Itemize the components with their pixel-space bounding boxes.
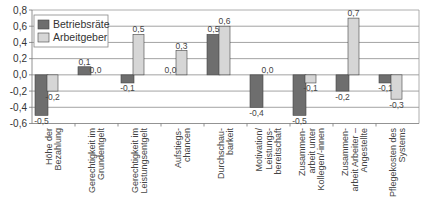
category-label-line: chancen bbox=[182, 128, 192, 162]
category-label-line: Aufstiegs- bbox=[173, 128, 183, 168]
legend: BetriebsräteArbeitgeber bbox=[34, 15, 110, 47]
category-label-line: Kollegen/-innen bbox=[316, 128, 326, 191]
category-label-line: Angestellte bbox=[359, 128, 369, 173]
legend-swatch-arbeitgeber bbox=[38, 33, 49, 42]
category-label-line: arbeit unter bbox=[307, 128, 317, 174]
category-label-line: barkeit bbox=[225, 128, 235, 156]
category-label-line: bereitschaft bbox=[273, 128, 283, 175]
value-label: -0,4 bbox=[249, 108, 264, 118]
value-label: -0,5 bbox=[292, 116, 307, 126]
bar-chart: 0,80,60,40,20,0-0,2-0,4-0,6 -0,50,1-0,10… bbox=[0, 0, 424, 207]
category-label: Gerechtigkeit imLeistungsentgelt bbox=[130, 128, 150, 194]
value-label: -0,5 bbox=[34, 116, 49, 126]
y-tick-label: 0,8 bbox=[13, 5, 27, 16]
bar-betriebsraete bbox=[121, 75, 134, 83]
y-tick-label: -0,6 bbox=[10, 118, 28, 129]
bar-betriebsraete bbox=[293, 75, 306, 116]
category-label-line: Gerechtigkeit im bbox=[87, 128, 97, 193]
value-label: 0,6 bbox=[219, 16, 231, 26]
category-label-line: Zusammen- bbox=[340, 128, 350, 176]
value-label: 0,3 bbox=[176, 41, 188, 51]
category-label-line: Grundentgelt bbox=[96, 128, 106, 181]
y-tick-label: 0,6 bbox=[13, 21, 27, 32]
category-label-line: Systems bbox=[397, 128, 407, 163]
bar-betriebsraete bbox=[207, 34, 220, 75]
category-label-line: Gerechtigkeit im bbox=[130, 128, 140, 193]
value-label: -0,2 bbox=[335, 92, 350, 102]
category-label: Höhe derBezahlung bbox=[44, 128, 64, 171]
category-label: Aufstiegs-chancen bbox=[173, 128, 193, 168]
legend-label: Arbeitgeber bbox=[53, 31, 108, 43]
bar-betriebsraete bbox=[250, 75, 263, 107]
category-label: Pflegekosten desSystems bbox=[388, 128, 408, 198]
bar-arbeitgeber bbox=[176, 51, 187, 75]
category-label: Gerechtigkeit imGrundentgelt bbox=[87, 128, 107, 194]
category-label-line: Durchschau- bbox=[216, 128, 226, 179]
category-label-line: Höhe der bbox=[44, 128, 54, 165]
category-label-line: Pflegekosten des bbox=[388, 128, 398, 198]
value-label: -0,1 bbox=[120, 83, 135, 93]
category-label-line: Bezahlung bbox=[53, 128, 63, 171]
category-label-line: Zusammen- bbox=[297, 128, 307, 176]
category-label: Zusammen-arbeit Arbeiter –Angestellte bbox=[340, 128, 369, 192]
y-tick-label: -0,4 bbox=[10, 102, 28, 113]
bar-betriebsraete bbox=[379, 75, 392, 83]
bar-arbeitgeber bbox=[348, 18, 359, 75]
bar-arbeitgeber bbox=[219, 26, 230, 75]
y-tick-label: 0,2 bbox=[13, 53, 27, 64]
category-label: Zusammen-arbeit unterKollegen/-innen bbox=[297, 128, 326, 191]
value-label: -0,1 bbox=[378, 83, 393, 93]
bar-arbeitgeber bbox=[305, 75, 316, 83]
x-axis: Höhe derBezahlungGerechtigkeit imGrunden… bbox=[44, 124, 408, 198]
category-label-line: arbeit Arbeiter – bbox=[350, 128, 360, 192]
value-label: 0,5 bbox=[133, 24, 145, 34]
category-label-line: Motivation/ bbox=[254, 128, 264, 172]
value-label: -0,3 bbox=[389, 100, 404, 110]
value-label: 0,0 bbox=[262, 65, 274, 75]
y-tick-label: 0,4 bbox=[13, 37, 27, 48]
bar-betriebsraete bbox=[336, 75, 349, 91]
legend-label: Betriebsräte bbox=[53, 18, 110, 30]
value-label: -0,2 bbox=[45, 92, 60, 102]
bar-arbeitgeber bbox=[47, 75, 58, 91]
category-label-line: Leistungsentgelt bbox=[139, 128, 149, 194]
value-label: 0,0 bbox=[165, 65, 177, 75]
category-label: Motivation/Leistungs-bereitschaft bbox=[254, 128, 283, 175]
category-label: Durchschau-barkeit bbox=[216, 128, 236, 180]
value-label: 0,0 bbox=[90, 65, 102, 75]
y-tick-label: -0,2 bbox=[10, 86, 28, 97]
category-label-line: Leistungs- bbox=[264, 128, 274, 170]
y-tick-label: 0,0 bbox=[13, 69, 27, 80]
legend-swatch-betriebsraete bbox=[38, 20, 49, 29]
value-label: -0,1 bbox=[303, 83, 318, 93]
value-label: 0,7 bbox=[348, 8, 360, 18]
bar-arbeitgeber bbox=[133, 34, 144, 75]
